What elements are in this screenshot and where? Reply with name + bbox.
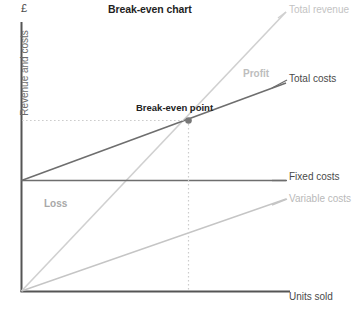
chart-title: Break-even chart bbox=[108, 4, 192, 15]
break-even-point-label: Break-even point bbox=[136, 103, 213, 113]
total-revenue-label: Total revenue bbox=[289, 5, 349, 15]
total-costs-label: Total costs bbox=[289, 74, 336, 84]
profit-region-label: Profit bbox=[243, 69, 269, 79]
fixed-costs-label: Fixed costs bbox=[289, 172, 340, 182]
total-revenue-line bbox=[22, 12, 287, 291]
total-costs-line bbox=[22, 83, 287, 181]
x-axis-title: Units sold bbox=[289, 292, 333, 302]
chart-plot-area bbox=[0, 0, 360, 311]
variable-costs-label: Variable costs bbox=[289, 194, 351, 204]
loss-region-label: Loss bbox=[44, 199, 67, 209]
variable-costs-leader-line bbox=[272, 199, 287, 205]
break-even-chart: Break-even chart £ Revenue and costs Uni… bbox=[0, 0, 360, 311]
variable-costs-line bbox=[22, 199, 287, 291]
y-axis-title: Revenue and costs bbox=[20, 13, 30, 133]
break-even-point-marker bbox=[185, 117, 192, 124]
